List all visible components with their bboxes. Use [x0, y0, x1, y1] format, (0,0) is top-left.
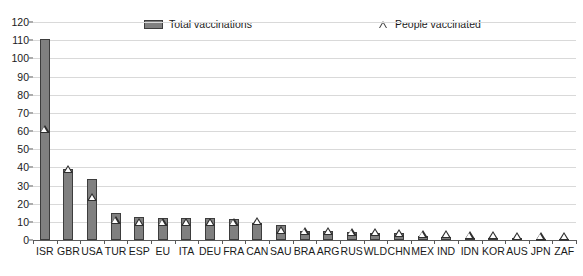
marker-gbr	[63, 165, 73, 173]
marker-jpn	[536, 232, 546, 240]
x-tick-label-ind: IND	[437, 246, 455, 258]
x-tick-label-usa: USA	[81, 246, 103, 258]
marker-ind	[441, 230, 451, 238]
x-tick-label-deu: DEU	[199, 246, 221, 258]
y-tick-label-100: 100	[11, 53, 29, 64]
x-tick-mark-2	[80, 240, 81, 244]
x-tick-label-mex: MEX	[411, 246, 434, 258]
x-tick-label-arg: ARG	[317, 246, 340, 258]
x-tick-mark-18	[458, 240, 459, 244]
marker-arg	[323, 227, 333, 235]
x-tick-mark-5	[151, 240, 152, 244]
y-tick-label-90: 90	[17, 71, 29, 82]
y-tick-label-40: 40	[17, 162, 29, 173]
x-tick-label-chn: CHN	[388, 246, 411, 258]
y-tick-label-10: 10	[17, 217, 29, 228]
marker-chn	[394, 229, 404, 237]
y-tick-label-110: 110	[12, 35, 29, 46]
marker-fra	[229, 218, 239, 226]
x-tick-mark-15	[387, 240, 388, 244]
x-tick-mark-14	[364, 240, 365, 244]
x-tick-label-esp: ESP	[129, 246, 150, 258]
x-axis: ISRGBRUSATURESPEUITADEUFRACANSAUBRAARGRU…	[33, 240, 576, 274]
x-tick-label-wld: WLD	[364, 246, 387, 258]
markers-layer	[33, 22, 576, 240]
marker-deu	[205, 218, 215, 226]
x-tick-mark-22	[552, 240, 553, 244]
x-tick-label-fra: FRA	[223, 246, 244, 258]
y-tick-label-60: 60	[17, 126, 29, 137]
marker-ita	[181, 218, 191, 226]
x-tick-label-bra: BRA	[294, 246, 316, 258]
marker-mex	[418, 230, 428, 238]
marker-isr	[40, 125, 50, 133]
marker-idn	[465, 231, 475, 239]
marker-sau	[276, 226, 286, 234]
y-tick-label-20: 20	[17, 198, 29, 209]
y-tick-label-120: 120	[11, 17, 29, 28]
x-tick-mark-17	[434, 240, 435, 244]
x-tick-label-idn: IDN	[461, 246, 479, 258]
x-tick-mark-8	[222, 240, 223, 244]
plot-area	[33, 22, 576, 240]
marker-tur	[111, 216, 121, 224]
x-tick-label-zaf: ZAF	[554, 246, 574, 258]
x-tick-mark-10	[269, 240, 270, 244]
marker-wld	[370, 228, 380, 236]
y-tick-label-30: 30	[17, 180, 29, 191]
x-tick-mark-7	[198, 240, 199, 244]
x-tick-mark-9	[245, 240, 246, 244]
marker-eu	[158, 218, 168, 226]
x-tick-mark-0	[33, 240, 34, 244]
x-tick-label-ita: ITA	[179, 246, 195, 258]
marker-esp	[134, 218, 144, 226]
x-tick-label-isr: ISR	[36, 246, 54, 258]
x-tick-mark-3	[104, 240, 105, 244]
vaccination-bar-chart: Total vaccinations People vaccinated 010…	[0, 0, 583, 276]
y-tick-label-70: 70	[17, 108, 29, 119]
x-tick-label-sau: SAU	[270, 246, 292, 258]
x-tick-mark-20	[505, 240, 506, 244]
marker-usa	[87, 193, 97, 201]
x-tick-label-aus: AUS	[506, 246, 528, 258]
x-tick-mark-19	[482, 240, 483, 244]
x-tick-mark-21	[529, 240, 530, 244]
x-tick-label-can: CAN	[246, 246, 268, 258]
marker-rus	[347, 228, 357, 236]
x-tick-label-tur: TUR	[105, 246, 127, 258]
x-tick-mark-4	[127, 240, 128, 244]
x-tick-label-gbr: GBR	[57, 246, 80, 258]
y-tick-label-50: 50	[17, 144, 29, 155]
x-tick-label-jpn: JPN	[531, 246, 551, 258]
x-tick-mark-1	[57, 240, 58, 244]
x-tick-label-kor: KOR	[482, 246, 505, 258]
x-tick-mark-12	[316, 240, 317, 244]
x-tick-mark-16	[411, 240, 412, 244]
x-tick-mark-6	[175, 240, 176, 244]
y-axis: 0102030405060708090100110120	[0, 22, 29, 240]
x-tick-mark-end	[576, 240, 577, 244]
x-tick-label-eu: EU	[156, 246, 171, 258]
x-tick-mark-13	[340, 240, 341, 244]
marker-bra	[300, 227, 310, 235]
marker-can	[252, 217, 262, 225]
marker-aus	[512, 232, 522, 240]
y-tick-label-80: 80	[17, 89, 29, 100]
marker-kor	[488, 231, 498, 239]
x-tick-mark-11	[293, 240, 294, 244]
x-tick-label-rus: RUS	[341, 246, 363, 258]
